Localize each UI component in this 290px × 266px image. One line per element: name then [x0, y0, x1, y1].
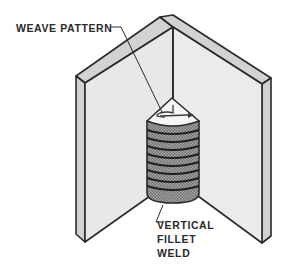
vertical-fillet-weld-illustration [0, 0, 290, 266]
vertical-fillet-weld-label: VERTICAL FILLET WELD [157, 218, 214, 260]
label-line-fillet: FILLET [157, 232, 214, 246]
weave-pattern-label: WEAVE PATTERN [16, 23, 112, 34]
label-line-vertical: VERTICAL [157, 218, 214, 232]
fillet-weld-bead [147, 98, 199, 203]
weld-diagram: WEAVE PATTERN VERTICAL FILLET WELD [0, 0, 290, 266]
label-line-weld: WELD [157, 246, 214, 260]
